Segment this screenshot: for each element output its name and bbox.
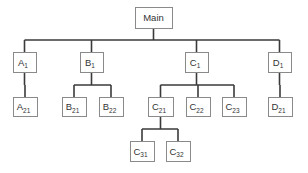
- node-b21: B21: [63, 98, 87, 117]
- node-d1: D1: [269, 53, 292, 73]
- node-a1: A1: [14, 53, 37, 73]
- node-main: Main: [136, 8, 173, 29]
- hierarchy-diagram: MainA1B1C1D1A21B21B22C21C22C23D21C31C32: [0, 0, 308, 173]
- node-d21: D21: [269, 98, 293, 117]
- node-c1: C1: [186, 53, 209, 73]
- node-label: Main: [143, 12, 164, 23]
- node-c32: C32: [167, 142, 191, 162]
- node-a21: A21: [14, 98, 38, 117]
- node-c21: C21: [149, 98, 174, 117]
- node-c31: C31: [131, 142, 155, 162]
- node-b22: B22: [100, 98, 124, 117]
- connector-lines: [25, 28, 281, 141]
- node-b1: B1: [81, 53, 104, 73]
- node-c22: C22: [187, 98, 211, 117]
- node-c23: C23: [223, 98, 247, 117]
